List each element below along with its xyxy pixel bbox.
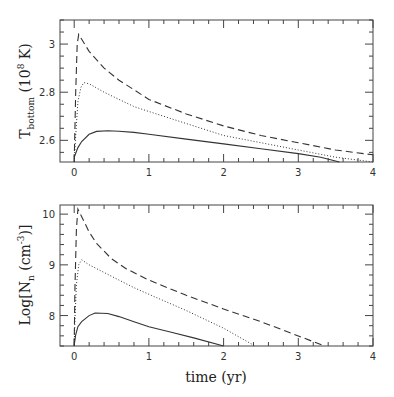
bottom-panel-series	[74, 209, 324, 346]
y-tick-label: 9	[49, 260, 55, 271]
top-panel-temperature: 012342.62.83 Tbottom (108 K)	[16, 20, 376, 178]
y-tick-label: 8	[49, 311, 55, 322]
top-panel-ticks: 012342.62.83	[39, 20, 376, 178]
series-dotted-line	[74, 260, 255, 346]
x-tick-label: 3	[295, 167, 301, 178]
top-panel-series	[74, 34, 373, 162]
series-solid-line	[74, 131, 339, 162]
y-tick-label: 2.8	[39, 87, 55, 98]
top-panel-frame	[60, 20, 373, 162]
x-tick-label: 4	[370, 351, 376, 362]
x-tick-label: 1	[146, 167, 152, 178]
bottom-panel-density: 012348910 Log[Nn (cm-3)]	[16, 205, 376, 362]
x-tick-label: 0	[71, 351, 77, 362]
top-y-axis-label: Tbottom (108 K)	[16, 43, 36, 139]
x-tick-label: 2	[220, 351, 226, 362]
figure: 012342.62.83 Tbottom (108 K) 012348910 L…	[0, 0, 394, 397]
bottom-panel-ticks: 012348910	[42, 205, 376, 362]
x-tick-label: 1	[146, 351, 152, 362]
series-dashed-line	[74, 209, 324, 346]
x-tick-label: 2	[220, 167, 226, 178]
y-tick-label: 3	[49, 39, 55, 50]
x-tick-label: 3	[295, 351, 301, 362]
series-dotted-line	[74, 83, 373, 162]
x-axis-label: time (yr)	[185, 369, 247, 385]
x-tick-label: 4	[370, 167, 376, 178]
series-dashed-line	[74, 34, 373, 162]
bottom-y-axis-label: Log[Nn (cm-3)]	[16, 225, 36, 326]
x-tick-label: 0	[71, 167, 77, 178]
y-tick-label: 10	[42, 209, 55, 220]
y-tick-label: 2.6	[39, 135, 55, 146]
